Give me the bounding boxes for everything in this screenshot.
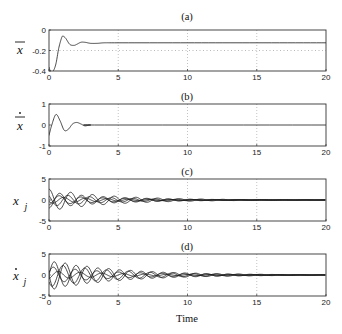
panel-b-ylabel: x (15, 112, 25, 133)
x-tick-label: 10 (183, 73, 192, 82)
x-tick-label: 20 (322, 298, 331, 307)
x-tick-label: 5 (116, 223, 121, 232)
panel-d-ylabel: x j (12, 268, 27, 287)
y-tick-label: 0 (42, 26, 47, 35)
x-tick-label: 10 (183, 298, 192, 307)
x-tick-label: 15 (252, 298, 261, 307)
x-tick-label: 0 (47, 148, 52, 157)
figure: (a) 051015200-0.2-0.4 x (b) 0510152010-1… (0, 0, 342, 334)
x-tick-label: 0 (47, 73, 52, 82)
svg-text:x: x (16, 118, 23, 133)
x-tick-label: 15 (252, 148, 261, 157)
panel-a-plot: 051015200-0.2-0.4 (32, 26, 331, 82)
panel-a: (a) 051015200-0.2-0.4 x (15, 11, 331, 82)
panel-b-title: (b) (181, 91, 194, 103)
y-tick-label: 0 (42, 271, 47, 280)
series-group (49, 189, 325, 209)
svg-text:j: j (22, 276, 27, 287)
y-tick-label: -1 (39, 142, 47, 151)
svg-text:x: x (12, 268, 19, 283)
panel-c-title: (c) (181, 166, 193, 178)
svg-text:x: x (16, 42, 23, 57)
x-tick-label: 20 (322, 223, 331, 232)
x-tick-label: 5 (116, 73, 121, 82)
svg-text:j: j (23, 201, 28, 212)
panel-c-plot: 0510152050-5 (39, 175, 331, 232)
series-group (49, 114, 326, 135)
panel-b: (b) 0510152010-1 x (15, 91, 331, 157)
y-tick-label: 0 (42, 196, 47, 205)
panel-c: (c) 0510152050-5 x j (12, 166, 331, 232)
y-tick-label: -5 (39, 292, 47, 301)
panel-d: (d) 0510152050-5 x j Time (12, 241, 331, 324)
x-tick-label: 20 (322, 148, 331, 157)
x-tick-label: 5 (116, 148, 121, 157)
x-tick-label: 0 (47, 298, 52, 307)
panel-d-title: (d) (181, 241, 194, 253)
y-tick-label: 0 (42, 121, 47, 130)
y-tick-label: 1 (42, 100, 47, 109)
panel-c-ylabel: x j (12, 193, 28, 212)
x-axis-label: Time (176, 313, 198, 324)
y-tick-label: -0.2 (32, 47, 46, 56)
svg-text:x: x (12, 193, 19, 208)
x-tick-label: 20 (322, 73, 331, 82)
x-tick-label: 15 (252, 73, 261, 82)
x-tick-label: 0 (47, 223, 52, 232)
x-tick-label: 5 (116, 298, 121, 307)
y-tick-label: -0.4 (32, 67, 46, 76)
panel-b-plot: 0510152010-1 (39, 100, 331, 157)
series-line-x_bar_dot (49, 114, 326, 135)
series-group (49, 262, 325, 289)
panel-d-plot: 0510152050-5 (39, 250, 331, 307)
y-tick-label: 5 (42, 250, 47, 259)
x-tick-label: 10 (183, 223, 192, 232)
x-tick-label: 15 (252, 223, 261, 232)
x-tick-label: 10 (183, 148, 192, 157)
panel-a-ylabel: x (15, 42, 25, 57)
panel-a-title: (a) (181, 11, 193, 23)
y-tick-label: -5 (39, 217, 47, 226)
y-tick-label: 5 (42, 175, 47, 184)
